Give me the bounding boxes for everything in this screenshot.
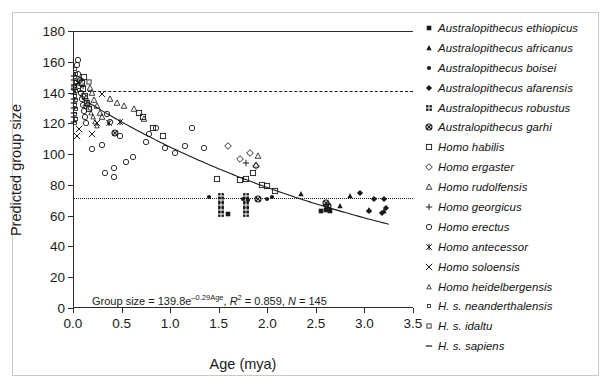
data-point — [321, 199, 335, 213]
legend-label: H. s. sapiens — [438, 340, 505, 352]
x-tick-label: 2.5 — [306, 316, 325, 331]
data-point — [113, 129, 127, 143]
data-point — [214, 207, 228, 221]
x-tick-label: 0.0 — [64, 316, 83, 331]
marker-grid-square — [214, 207, 228, 221]
legend-label: Australopithecus garhi — [438, 121, 552, 133]
x-tick-label: 0.5 — [112, 316, 131, 331]
marker-filled-triangle — [294, 187, 308, 201]
legend-item[interactable]: Homo habilis — [420, 137, 598, 157]
y-tick-label: 120 — [42, 116, 65, 131]
y-tick-label: 160 — [42, 54, 65, 69]
legend-item[interactable]: Homo georgicus — [420, 197, 598, 217]
legend-marker-open-circle-icon — [420, 217, 438, 237]
legend-item[interactable]: H. s. sapiens — [420, 336, 598, 356]
legend-label: Homo erectus — [438, 221, 510, 233]
data-point — [197, 141, 211, 155]
legend-label: Australopithecus boisei — [438, 62, 556, 74]
plot-area: 020406080100120140160180 0.00.51.01.52.0… — [73, 31, 413, 308]
figure-root: Predicted group size 0204060801001201401… — [0, 0, 613, 391]
legend-marker-open-square-icon — [420, 137, 438, 157]
legend-item[interactable]: Homo heidelbergensis — [420, 277, 598, 297]
legend-item[interactable]: Australopithecus robustus — [420, 98, 598, 118]
marker-open-circle — [185, 121, 199, 135]
legend-marker-filled-circle-icon — [420, 58, 438, 78]
legend-label: Homo ergaster — [438, 161, 514, 173]
legend-marker-filled-diamond-icon — [420, 78, 438, 98]
data-point — [82, 75, 96, 89]
data-point — [117, 99, 131, 113]
data-point — [113, 115, 127, 129]
data-point — [149, 121, 163, 135]
data-point — [239, 207, 253, 221]
legend-label: Homo rudolfensis — [438, 181, 527, 193]
legend-item[interactable]: Homo ergaster — [420, 157, 598, 177]
marker-crossed-circle — [251, 192, 265, 206]
legend-item[interactable]: Australopithecus africanus — [420, 38, 598, 58]
data-point — [67, 69, 81, 83]
legend-label: Australopithecus ethiopicus — [438, 22, 578, 34]
y-tick — [68, 185, 73, 186]
y-tick-label: 40 — [50, 239, 65, 254]
marker-filled-diamond — [353, 186, 367, 200]
legend-label: H. s. neanderthalensis — [438, 300, 552, 312]
marker-open-circle — [178, 139, 192, 153]
legend-item[interactable]: Australopithecus boisei — [420, 58, 598, 78]
marker-open-square — [268, 184, 282, 198]
data-point — [90, 119, 104, 133]
data-point — [379, 201, 393, 215]
y-tick-label: 140 — [42, 85, 65, 100]
x-axis-label-text: Age (mya) — [210, 356, 277, 372]
x-tick-label: 1.5 — [209, 316, 228, 331]
marker-dash — [67, 69, 81, 83]
marker-open-square — [210, 172, 224, 186]
equation-annotation: Group size = 139.8e–0.29Age, R2 = 0.859,… — [92, 293, 327, 307]
marker-plus — [239, 156, 253, 170]
data-point — [353, 186, 367, 200]
legend-item[interactable]: Homo antecessor — [420, 237, 598, 257]
legend-marker-open-triangle-icon — [420, 177, 438, 197]
y-tick — [68, 154, 73, 155]
y-axis-label: Predicted group size — [6, 31, 26, 308]
y-tick-label: 80 — [50, 177, 65, 192]
legend-item[interactable]: Australopithecus afarensis — [420, 78, 598, 98]
data-point — [294, 187, 308, 201]
legend-item[interactable]: H. s. idaltu — [420, 316, 598, 336]
legend-item[interactable]: Homo soloensis — [420, 257, 598, 277]
marker-cross-x — [70, 129, 84, 143]
data-point — [70, 129, 84, 143]
x-tick — [122, 308, 123, 313]
legend-marker-open-square-small-icon — [420, 316, 438, 336]
data-point — [185, 121, 199, 135]
legend-item[interactable]: Australopithecus garhi — [420, 117, 598, 137]
marker-asterisk — [113, 115, 127, 129]
y-axis-label-text: Predicted group size — [8, 103, 24, 235]
marker-open-diamond — [221, 139, 235, 153]
marker-cross-x — [95, 87, 109, 101]
x-tick — [219, 308, 220, 313]
y-tick-label: 100 — [42, 147, 65, 162]
data-point — [67, 115, 81, 129]
legend-item[interactable]: Homo erectus — [420, 217, 598, 237]
marker-open-circle — [126, 150, 140, 164]
marker-crossed-circle — [321, 199, 335, 213]
legend-label: Homo soloensis — [438, 261, 520, 273]
y-tick-label: 0 — [57, 301, 65, 316]
legend-item[interactable]: H. s. neanderthalensis — [420, 296, 598, 316]
y-tick — [68, 277, 73, 278]
legend-item[interactable]: Homo rudolfensis — [420, 177, 598, 197]
y-tick-label: 180 — [42, 24, 65, 39]
data-point — [126, 150, 140, 164]
legend-marker-tiny-open-square-icon — [420, 296, 438, 316]
x-tick — [267, 308, 268, 313]
legend-label: Homo habilis — [438, 141, 504, 153]
x-tick-label: 1.0 — [161, 316, 180, 331]
x-tick-label: 3.0 — [355, 316, 374, 331]
legend-label: Homo georgicus — [438, 201, 522, 213]
legend-label: Australopithecus robustus — [438, 102, 570, 114]
x-axis-label: Age (mya) — [73, 356, 413, 372]
legend-item[interactable]: Australopithecus ethiopicus — [420, 18, 598, 38]
data-point — [210, 172, 224, 186]
y-tick — [68, 246, 73, 247]
marker-open-square-small — [82, 75, 96, 89]
